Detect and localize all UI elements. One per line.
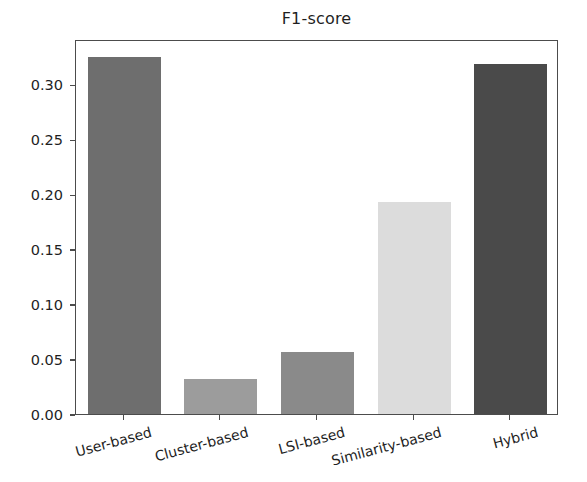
y-tick-label: 0.20 [17,187,63,203]
y-tick-mark [70,140,75,141]
x-tick-mark [316,415,317,420]
y-tick-label: 0.10 [17,297,63,313]
x-tick-mark [509,415,510,420]
bar-similarity-based [378,202,451,414]
y-tick-mark [70,195,75,196]
figure: F1-score 0.000.050.100.150.200.250.30 Us… [0,0,587,482]
y-tick-mark [70,304,75,305]
y-tick-label: 0.15 [17,242,63,258]
bar-hybrid [474,64,547,414]
x-tick-mark [413,415,414,420]
y-tick-label: 0.00 [17,407,63,423]
x-tick-mark [123,415,124,420]
plot-area [75,40,558,415]
y-tick-mark [70,85,75,86]
x-tick-mark [219,415,220,420]
chart-title: F1-score [75,9,558,28]
y-tick-label: 0.25 [17,132,63,148]
y-tick-mark [70,249,75,250]
y-tick-label: 0.05 [17,352,63,368]
y-tick-label: 0.30 [17,77,63,93]
bars-layer [76,41,557,414]
y-tick-mark [70,414,75,415]
bar-user-based [88,57,161,414]
bar-lsi-based [281,352,354,414]
bar-cluster-based [184,379,257,414]
y-tick-mark [70,359,75,360]
